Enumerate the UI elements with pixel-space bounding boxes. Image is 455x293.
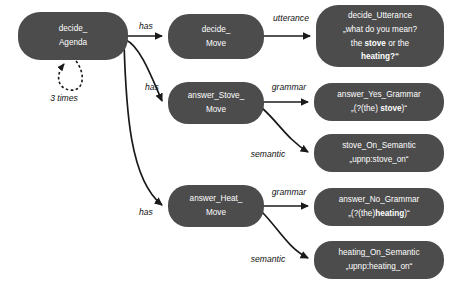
node-answer-yes-grammar[interactable]: answer_Yes_Grammar „(?(the) stove)“ — [314, 83, 444, 121]
node-decide-agenda-line-1: Agenda — [59, 38, 88, 47]
edge-label-has-3: has — [139, 207, 154, 217]
node-answer-no-grammar-line-1: „(?(the)heating)“ — [348, 209, 410, 218]
node-decide-agenda-line-0: decide_ — [59, 24, 88, 33]
node-answer-stove-move[interactable]: answer_Stove_ Move — [168, 82, 264, 124]
edge-label-grammar-1: grammar — [272, 82, 308, 92]
node-answer-no-grammar-line-0: answer_No_Grammar — [339, 195, 420, 204]
node-answer-yes-grammar-line-0: answer_Yes_Grammar — [337, 90, 421, 99]
node-stove-on-semantic-line-0: stove_On_Semantic — [342, 141, 416, 150]
node-decide-utterance-line-1: „what do you mean? — [343, 25, 418, 34]
node-heating-on-semantic[interactable]: heating_On_Semantic „upnp:heating_on“ — [314, 241, 444, 279]
node-answer-yes-grammar-line-1: „(?(the) stove)“ — [351, 104, 407, 113]
node-answer-no-grammar[interactable]: answer_No_Grammar „(?(the)heating)“ — [314, 188, 444, 226]
node-decide-utterance-line-2: the stove or the — [351, 39, 410, 48]
node-decide-move-line-1: Move — [206, 39, 226, 48]
diagram-canvas: decide_ Agenda decide_ Move decide_Utter… — [0, 0, 455, 293]
edge-label-has-1: has — [139, 21, 154, 31]
edge-label-utterance: utterance — [273, 13, 309, 23]
node-answer-stove-move-line-0: answer_Stove_ — [188, 91, 245, 100]
edge-self-loop-agenda — [59, 61, 83, 90]
node-decide-move-line-0: decide_ — [202, 25, 231, 34]
edge-semantic-stove-on — [262, 108, 308, 152]
node-heating-on-semantic-line-0: heating_On_Semantic — [338, 248, 419, 257]
graph-svg: decide_ Agenda decide_ Move decide_Utter… — [0, 0, 455, 293]
node-heating-on-semantic-line-1: „upnp:heating_on“ — [346, 262, 413, 271]
node-answer-heat-move-line-0: answer_Heat_ — [190, 194, 243, 203]
edge-label-3-times: 3 times — [50, 93, 78, 103]
node-stove-on-semantic-line-1: „upnp:stove_on“ — [349, 155, 408, 164]
edge-label-has-2: has — [145, 82, 160, 92]
node-answer-heat-move[interactable]: answer_Heat_ Move — [168, 185, 264, 227]
node-decide-move[interactable]: decide_ Move — [168, 14, 264, 59]
edge-label-semantic-1: semantic — [251, 149, 286, 159]
node-decide-utterance-line-3: heating?“ — [361, 52, 399, 61]
edge-label-grammar-2: grammar — [272, 187, 308, 197]
nodes-layer: decide_ Agenda decide_ Move decide_Utter… — [18, 5, 444, 279]
node-decide-agenda[interactable]: decide_ Agenda — [18, 12, 128, 60]
node-stove-on-semantic[interactable]: stove_On_Semantic „upnp:stove_on“ — [314, 134, 444, 172]
node-answer-heat-move-line-1: Move — [206, 208, 226, 217]
edge-has-answer-heat-move — [124, 42, 162, 205]
node-decide-utterance[interactable]: decide_Utterance „what do you mean? the … — [316, 5, 444, 67]
edge-label-semantic-2: semantic — [251, 254, 286, 264]
node-decide-utterance-line-0: decide_Utterance — [348, 11, 413, 20]
edge-semantic-heating-on — [262, 212, 308, 258]
node-answer-stove-move-line-1: Move — [206, 105, 226, 114]
